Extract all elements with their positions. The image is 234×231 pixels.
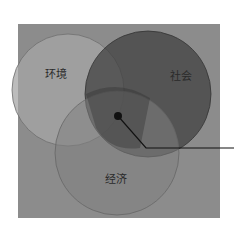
label-society: 社会 bbox=[170, 69, 192, 83]
label-economy: 经济 bbox=[105, 172, 127, 186]
label-environment: 环境 bbox=[45, 67, 67, 81]
venn-diagram: 环境 社会 经济 bbox=[0, 0, 234, 231]
